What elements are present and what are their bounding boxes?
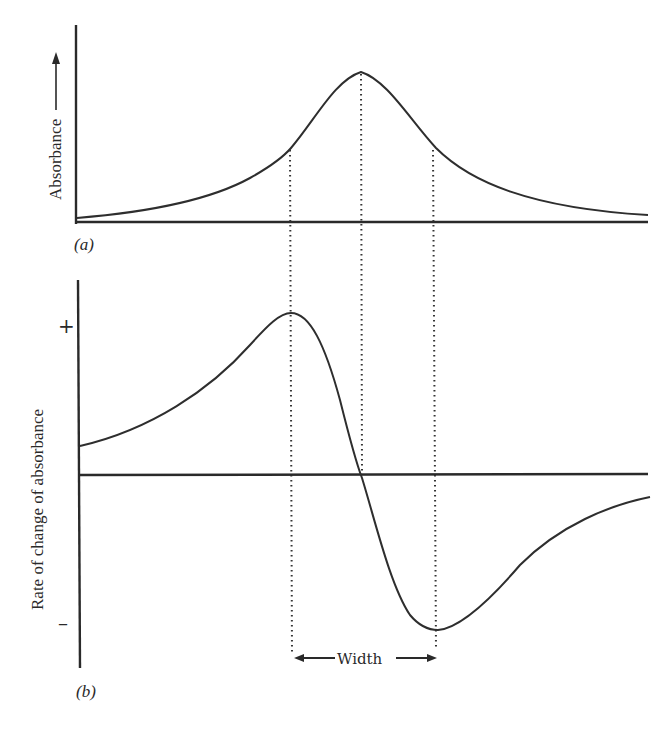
minus-tick-label: – [58, 611, 68, 635]
half-height-right-guide [433, 150, 436, 650]
plus-tick-label: + [58, 314, 75, 338]
derivative-curve [80, 313, 650, 630]
panel-b-y-label: Rate of change of absorbance [28, 409, 47, 610]
peak-center-guide [361, 74, 362, 475]
width-label: Width [337, 650, 383, 668]
half-height-left-guide [290, 150, 292, 655]
absorbance-derivative-figure: Absorbance (a) + – Rate of change of abs… [0, 0, 671, 732]
up-arrow-icon [52, 52, 60, 110]
panel-a-y-label: Absorbance [46, 119, 65, 200]
right-arrowhead-icon [427, 654, 437, 662]
panel-b-label: (b) [76, 682, 96, 701]
width-annotation: Width [294, 650, 437, 668]
left-arrowhead-icon [294, 654, 304, 662]
panel-a: Absorbance (a) [46, 25, 648, 655]
panel-b: + – Rate of change of absorbance Width (… [28, 280, 650, 701]
absorbance-curve [77, 72, 648, 218]
panel-b-zero-line [79, 474, 648, 475]
panel-a-label: (a) [74, 235, 94, 254]
